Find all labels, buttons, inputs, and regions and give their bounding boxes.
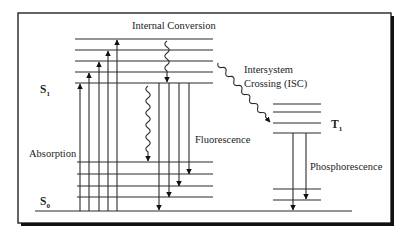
phosphorescence-label: Phosphorescence — [310, 161, 383, 172]
isc-label-line1: Intersystem — [244, 64, 293, 75]
absorption-label: Absorption — [29, 148, 77, 159]
isc-label-line2: Crossing (ISC) — [244, 78, 308, 90]
jablonski-diagram: S1 S0 T1 Absorption Internal Conversion … — [0, 0, 407, 239]
internal-conversion-label: Internal Conversion — [132, 20, 216, 31]
fluorescence-label: Fluorescence — [195, 134, 251, 145]
